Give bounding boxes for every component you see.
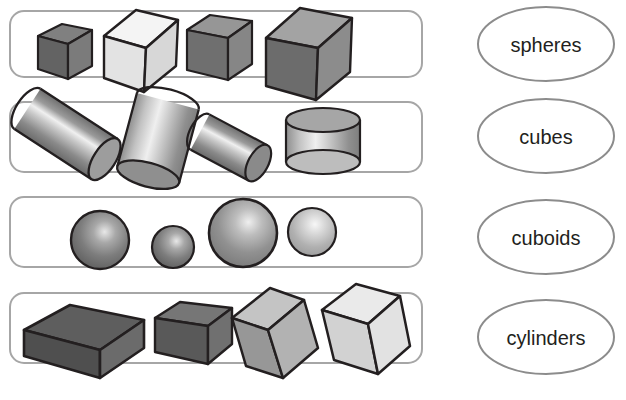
label-cylinders[interactable]: cylinders (478, 300, 614, 374)
label-cubes-text: cubes (519, 126, 572, 148)
label-spheres-text: spheres (510, 34, 581, 56)
label-spheres[interactable]: spheres (478, 7, 614, 81)
worksheet-canvas: spheres cubes cuboids cylinders (0, 0, 626, 400)
label-cubes[interactable]: cubes (478, 99, 614, 173)
labels-svg: spheres cubes cuboids cylinders (0, 0, 626, 400)
label-cuboids-text: cuboids (512, 227, 581, 249)
label-cuboids[interactable]: cuboids (478, 200, 614, 274)
label-cylinders-text: cylinders (507, 327, 586, 349)
